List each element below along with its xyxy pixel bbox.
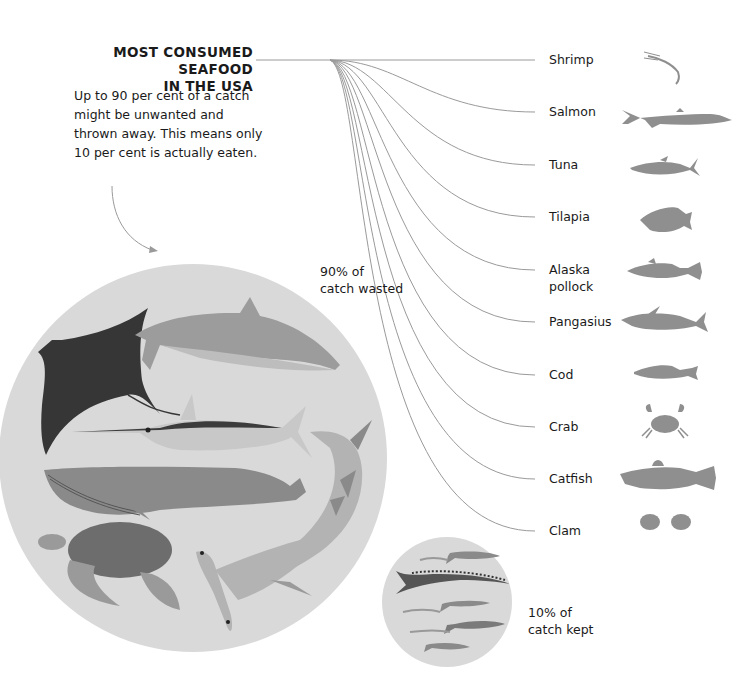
seafood-label-pangasius: Pangasius [549, 313, 612, 330]
description-line: Up to 90 per cent of a catch [74, 86, 274, 105]
wasted-stat-label: 90% of catch wasted [320, 263, 403, 297]
seafood-label-crab: Crab [549, 418, 578, 435]
seafood-label-salmon: Salmon [549, 103, 596, 120]
kept-stat-line: 10% of [528, 604, 594, 621]
wasted-stat-line: 90% of [320, 263, 403, 280]
seafood-label-shrimp: Shrimp [549, 51, 594, 68]
pollock-icon [627, 258, 702, 280]
cod-icon [634, 365, 698, 380]
seafood-label-tuna: Tuna [549, 156, 578, 173]
title-line: MOST CONSUMED [113, 44, 253, 61]
catfish-icon [620, 460, 716, 490]
salmon-icon [622, 108, 732, 128]
description-line: 10 per cent is actually eaten. [74, 143, 274, 162]
seafood-label-clam: Clam [549, 522, 581, 539]
tuna-icon [630, 156, 700, 176]
seafood-label-catfish: Catfish [549, 470, 593, 487]
crab-icon [642, 404, 688, 438]
seafood-label-alaska-pollock: Alaska pollock [549, 261, 593, 295]
description-line: might be unwanted and [74, 105, 274, 124]
seafood-label-line: Alaska [549, 261, 593, 278]
pangasius-icon [621, 306, 708, 332]
kept-stat-label: 10% of catch kept [528, 604, 594, 638]
shrimp-icon [644, 52, 679, 84]
wasted-stat-line: catch wasted [320, 280, 403, 297]
seafood-label-line: pollock [549, 278, 593, 295]
tilapia-icon [640, 207, 692, 232]
curved-arrow-icon [112, 186, 158, 253]
description-text: Up to 90 per cent of a catch might be un… [74, 86, 274, 162]
seafood-label-tilapia: Tilapia [549, 208, 590, 225]
clam-icon [640, 514, 691, 530]
kept-stat-line: catch kept [528, 621, 594, 638]
seafood-label-cod: Cod [549, 366, 573, 383]
title-line: SEAFOOD [113, 61, 253, 78]
description-line: thrown away. This means only [74, 124, 274, 143]
